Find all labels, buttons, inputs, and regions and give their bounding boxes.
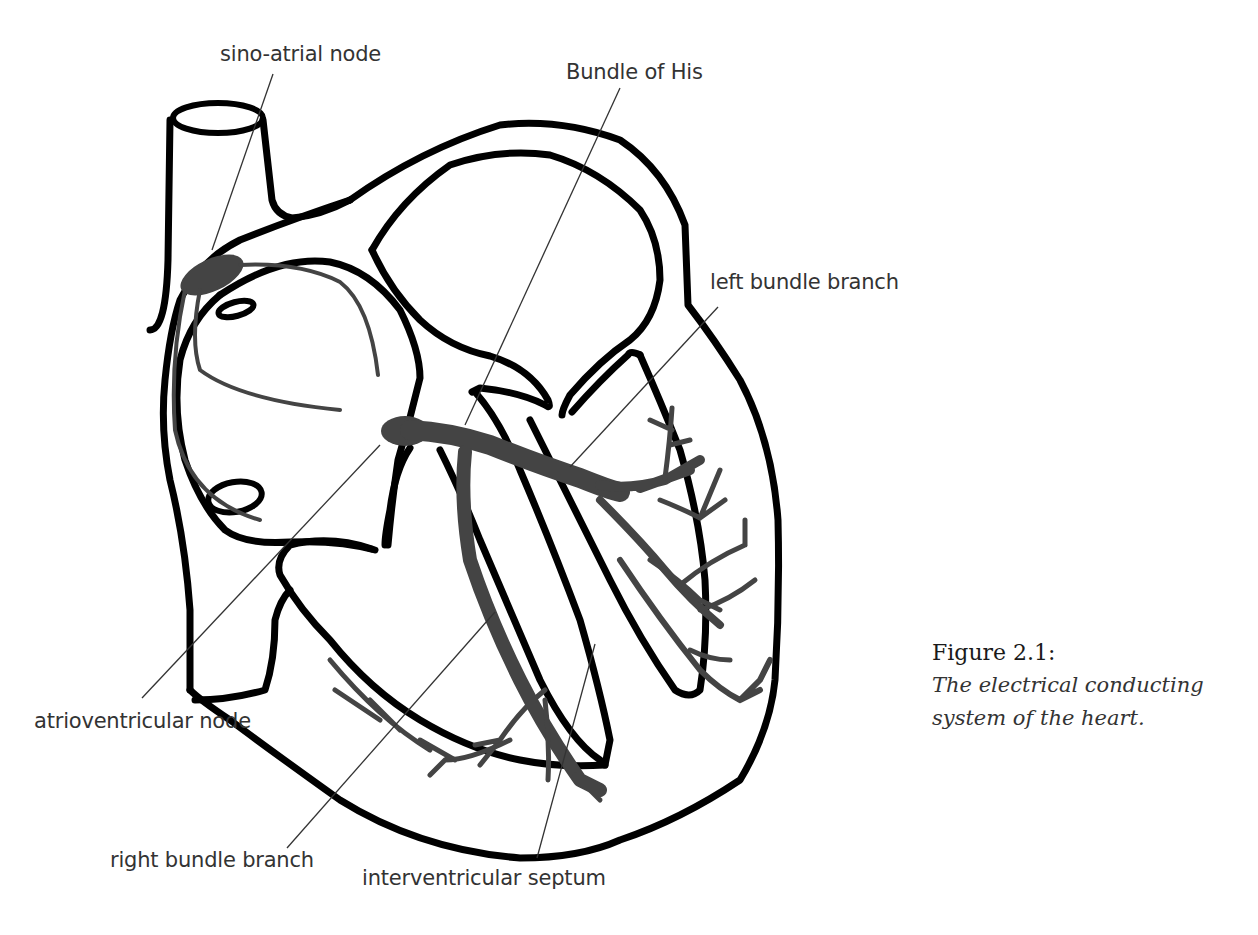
- label-interventricular-septum: interventricular septum: [362, 866, 606, 890]
- caption-line-1: The electrical conducting: [932, 669, 1258, 702]
- left-bundle-branch: [600, 408, 770, 700]
- heart-conduction-figure: sino-atrial node Bundle of His left bund…: [0, 0, 1258, 935]
- leader-lines: [142, 74, 718, 858]
- figure-number: Figure 2.1:: [932, 640, 1258, 665]
- label-bundle-of-his: Bundle of His: [566, 60, 703, 84]
- label-left-bundle-branch: left bundle branch: [710, 270, 899, 294]
- label-atrioventricular-node: atrioventricular node: [34, 709, 251, 733]
- figure-caption: Figure 2.1: The electrical conducting sy…: [932, 640, 1258, 735]
- label-sino-atrial-node: sino-atrial node: [220, 42, 381, 66]
- leader-right-bundle: [287, 612, 495, 848]
- left-atrium: [372, 153, 660, 415]
- label-right-bundle-branch: right bundle branch: [110, 848, 314, 872]
- heart-diagram: [0, 0, 1258, 935]
- right-bundle-branch: [330, 452, 600, 800]
- leader-bundle-of-his: [465, 88, 620, 425]
- caption-line-2: system of the heart.: [932, 702, 1258, 735]
